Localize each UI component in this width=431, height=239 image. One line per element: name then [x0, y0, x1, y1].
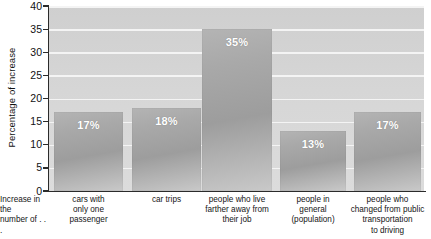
category-label-line: their job — [194, 215, 280, 225]
y-axis-tick — [43, 167, 49, 168]
bar-chart: Percentage of increase 17%18%35%13%17% 0… — [0, 0, 431, 239]
category-label-line: passenger — [46, 215, 131, 225]
y-axis-tick-label: 35 — [16, 24, 42, 35]
bar[interactable]: 13% — [280, 131, 346, 191]
y-axis-tick — [43, 29, 49, 30]
category-label-line: only one — [46, 205, 131, 215]
y-axis-tick-label: 20 — [16, 93, 42, 104]
category-label-line: people who — [346, 195, 429, 205]
y-axis-title: Percentage of increase — [6, 13, 17, 183]
y-axis-tick-label: 10 — [16, 139, 42, 150]
x-axis-note-line2: number of . . . — [0, 215, 50, 235]
category-label: people who livefarther away fromtheir jo… — [194, 195, 280, 226]
category-label-line: general — [272, 205, 354, 215]
category-label-line: people in — [272, 195, 354, 205]
y-axis-tick — [43, 190, 49, 191]
y-axis-tick — [43, 98, 49, 99]
y-axis-tick — [43, 144, 49, 145]
y-axis-tick — [43, 5, 49, 6]
bar-value-label: 17% — [354, 119, 421, 131]
bar-value-label: 35% — [202, 36, 272, 48]
category-label-line: (population) — [272, 215, 354, 225]
y-axis-tick-label: 5 — [16, 162, 42, 173]
bar[interactable]: 35% — [202, 29, 272, 191]
category-label-line: changed from public — [346, 205, 429, 215]
y-axis-tick-label: 15 — [16, 116, 42, 127]
y-axis-tick — [43, 52, 49, 53]
y-axis-tick-label: 30 — [16, 47, 42, 58]
category-label-line: to driving — [346, 226, 429, 236]
bar[interactable]: 17% — [54, 112, 123, 191]
x-axis-line — [48, 191, 426, 193]
category-label-line: people who live — [194, 195, 280, 205]
bar[interactable]: 17% — [354, 112, 421, 191]
category-label-line: farther away from — [194, 205, 280, 215]
category-label: cars withonly onepassenger — [46, 195, 131, 226]
category-label: people whochanged from publictransportat… — [346, 195, 429, 236]
y-axis-tick — [43, 121, 49, 122]
bar-value-label: 18% — [132, 115, 201, 127]
x-axis-note: Increase in the number of . . . — [0, 195, 50, 236]
gridline — [49, 6, 424, 8]
category-label: people ingeneral(population) — [272, 195, 354, 226]
bar-value-label: 13% — [280, 138, 346, 150]
y-axis-tick-label: 40 — [16, 1, 42, 12]
plot-area: 17%18%35%13%17% — [49, 6, 424, 191]
y-axis-tick — [43, 75, 49, 76]
x-axis-note-line1: Increase in the — [0, 195, 50, 215]
category-label-line: transportation — [346, 215, 429, 225]
bar[interactable]: 18% — [132, 108, 201, 191]
bar-value-label: 17% — [54, 119, 123, 131]
category-label-line: cars with — [46, 195, 131, 205]
y-axis-tick-label: 25 — [16, 70, 42, 81]
